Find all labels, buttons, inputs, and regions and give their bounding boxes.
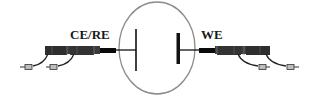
- ce-re-electrode-label: CE/RE: [70, 28, 110, 41]
- right-electrode-plate: [177, 33, 201, 64]
- electrochemical-cell-diagram: [0, 0, 311, 97]
- right-connector-icon: [199, 46, 299, 70]
- left-electrode-plate: [115, 29, 136, 71]
- cell-ellipse: [119, 2, 195, 94]
- we-electrode-label: WE: [201, 28, 223, 41]
- left-connector-icon: [20, 46, 116, 70]
